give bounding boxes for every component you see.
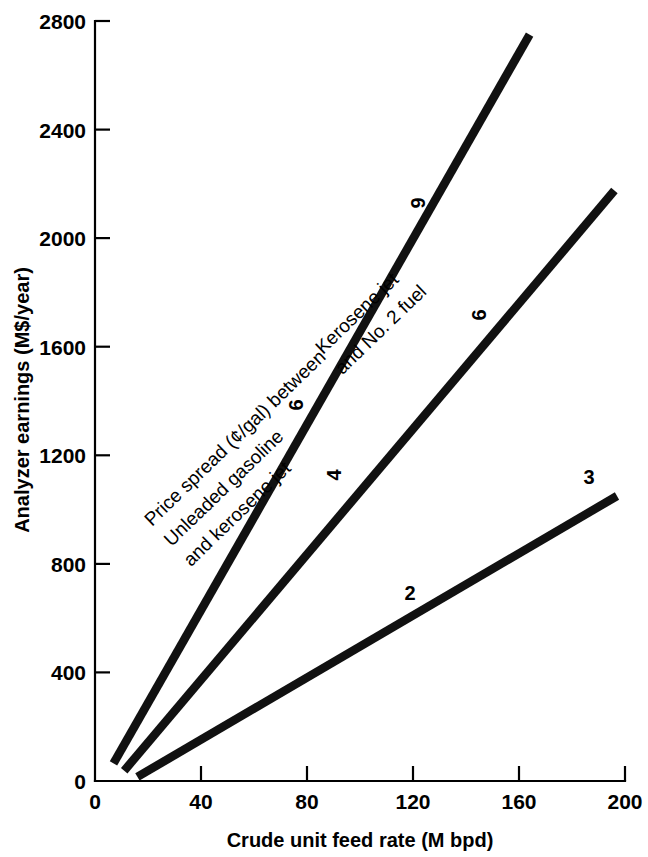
series-mark-6-middle: 6 bbox=[468, 309, 490, 320]
series-mark-4-middle: 4 bbox=[323, 469, 345, 481]
y-tick-label-2000: 2000 bbox=[39, 227, 86, 250]
y-tick-label-1600: 1600 bbox=[39, 336, 86, 359]
y-tick-label-400: 400 bbox=[51, 661, 86, 684]
series-line-9 bbox=[114, 35, 530, 764]
y-tick-label-2800: 2800 bbox=[39, 10, 86, 33]
x-tick-label-0: 0 bbox=[89, 790, 101, 813]
y-tick-label-0: 0 bbox=[74, 770, 86, 793]
line-chart-plot: 2800 2400 2000 1600 1200 800 400 0 0 40 … bbox=[0, 0, 648, 857]
y-ticks-group bbox=[95, 21, 110, 672]
y-tick-labels-group: 2800 2400 2000 1600 1200 800 400 0 bbox=[39, 10, 86, 793]
series-lines-group bbox=[114, 35, 618, 777]
x-tick-label-80: 80 bbox=[295, 790, 318, 813]
x-tick-label-120: 120 bbox=[395, 790, 430, 813]
series-mark-6-upper: 6 bbox=[285, 399, 307, 410]
x-axis-title: Crude unit feed rate (M bpd) bbox=[227, 829, 494, 851]
chart-container: 2800 2400 2000 1600 1200 800 400 0 0 40 … bbox=[0, 0, 648, 857]
y-tick-label-800: 800 bbox=[51, 553, 86, 576]
x-tick-label-40: 40 bbox=[189, 790, 212, 813]
x-tick-labels-group: 0 40 80 120 160 200 bbox=[89, 790, 642, 813]
y-axis-title: Analyzer earnings (M$/year) bbox=[11, 267, 33, 533]
series-mark-9-upper: 9 bbox=[407, 197, 429, 208]
y-tick-label-1200: 1200 bbox=[39, 444, 86, 467]
x-tick-label-160: 160 bbox=[501, 790, 536, 813]
axes-group bbox=[95, 21, 625, 781]
y-tick-label-2400: 2400 bbox=[39, 119, 86, 142]
x-ticks-group bbox=[201, 766, 625, 781]
series-mark-3-lower: 3 bbox=[583, 466, 594, 488]
x-tick-label-200: 200 bbox=[607, 790, 642, 813]
series-mark-2-lower: 2 bbox=[404, 582, 415, 604]
